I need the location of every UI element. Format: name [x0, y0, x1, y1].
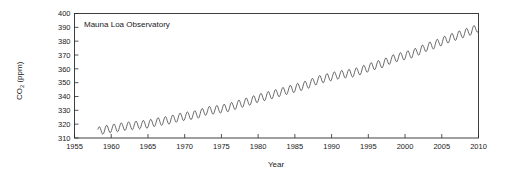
x-tick-label-1975: 1975 — [213, 142, 230, 151]
x-tick-label-1980: 1980 — [250, 142, 267, 151]
y-tick-label-370: 370 — [58, 51, 71, 60]
y-tick-label-350: 350 — [58, 78, 71, 87]
y-tick-label-380: 380 — [58, 37, 71, 46]
y-tick-label-340: 340 — [58, 92, 71, 101]
plot-annotation: Mauna Loa Observatory — [84, 20, 170, 29]
x-tick-label-2000: 2000 — [397, 142, 414, 151]
x-tick-label-1990: 1990 — [323, 142, 340, 151]
y-tick-label-390: 390 — [58, 23, 71, 32]
y-tick-label-360: 360 — [58, 65, 71, 74]
x-tick-label-1985: 1985 — [287, 142, 304, 151]
x-tick-label-1970: 1970 — [176, 142, 193, 151]
x-tick-label-1995: 1995 — [360, 142, 377, 151]
co2-chart-figure: 310320330340350360370380390400 195519601… — [0, 0, 510, 181]
keeling-curve-chart: 310320330340350360370380390400 195519601… — [0, 0, 510, 181]
x-tick-label-2005: 2005 — [433, 142, 450, 151]
x-tick-label-1955: 1955 — [66, 142, 83, 151]
y-tick-label-330: 330 — [58, 106, 71, 115]
y-tick-label-400: 400 — [58, 9, 71, 18]
y-axis-title: CO2 (ppm) — [15, 61, 25, 100]
svg-text:CO2 (ppm): CO2 (ppm) — [15, 61, 25, 100]
x-axis-title: Year — [268, 160, 285, 169]
y-tick-label-320: 320 — [58, 120, 71, 129]
y-axis-title-unit: (ppm) — [15, 61, 24, 84]
x-tick-label-1965: 1965 — [140, 142, 157, 151]
x-tick-label-1960: 1960 — [103, 142, 120, 151]
x-tick-label-2010: 2010 — [470, 142, 487, 151]
y-axis-title-base: CO — [15, 88, 24, 100]
